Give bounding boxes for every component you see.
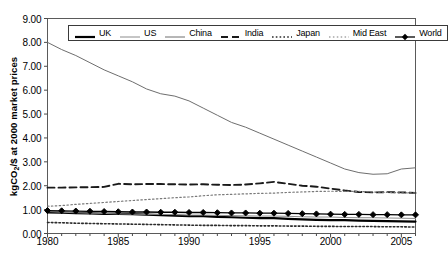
chart-legend: UKUSChinaIndiaJapanMid EastWorld (68, 25, 448, 41)
series-marker (200, 209, 206, 215)
series-marker (257, 210, 263, 216)
legend-swatch-icon (74, 28, 96, 38)
legend-item-mid-east[interactable]: Mid East (328, 28, 386, 38)
legend-item-china[interactable]: China (164, 28, 212, 38)
legend-swatch-icon (119, 28, 141, 38)
legend-item-uk[interactable]: UK (74, 28, 111, 38)
legend-label: Mid East (353, 28, 386, 38)
legend-label: China (189, 28, 212, 38)
legend-label: World (419, 28, 441, 38)
series-line (48, 42, 416, 174)
legend-item-india[interactable]: India (220, 28, 264, 38)
series-mid-east (48, 191, 416, 206)
series-marker (356, 211, 362, 217)
series-marker (398, 212, 404, 218)
legend-label: UK (99, 28, 111, 38)
series-marker (243, 210, 249, 216)
series-marker (271, 210, 277, 216)
series-marker (413, 212, 419, 218)
legend-label: US (144, 28, 156, 38)
plot-frame (48, 19, 416, 234)
series-japan (48, 223, 416, 228)
legend-swatch-icon (394, 28, 416, 38)
series-marker (370, 212, 376, 218)
legend-item-japan[interactable]: Japan (271, 28, 320, 38)
legend-label: Japan (296, 28, 320, 38)
series-marker (299, 211, 305, 217)
series-china (48, 42, 416, 174)
series-marker (328, 211, 334, 217)
legend-swatch-icon (164, 28, 186, 38)
legend-swatch-icon (271, 28, 293, 38)
legend-label: India (245, 28, 264, 38)
legend-swatch-icon (220, 28, 242, 38)
series-marker (313, 211, 319, 217)
legend-swatch-icon (328, 28, 350, 38)
series-marker (342, 211, 348, 217)
legend-item-world[interactable]: World (394, 28, 441, 38)
series-marker (384, 212, 390, 218)
series-line (48, 223, 416, 228)
series-marker (285, 210, 291, 216)
series-line (48, 191, 416, 206)
legend-item-us[interactable]: US (119, 28, 156, 38)
